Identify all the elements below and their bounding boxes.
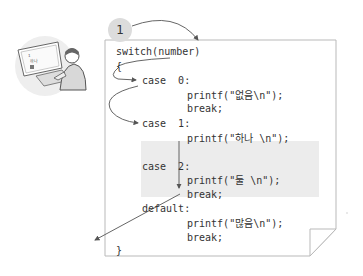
step-badge: 1 bbox=[108, 18, 132, 42]
code-line-open-brace: { bbox=[116, 61, 122, 73]
code-line-break-default: break; bbox=[187, 232, 223, 244]
code-line-case0: case 0: bbox=[142, 75, 190, 87]
code-line-printf-one: printf("하나 \n"); bbox=[187, 133, 289, 145]
code-line-break-2: break; bbox=[187, 189, 223, 201]
code-line-switch: switch(number) bbox=[116, 46, 200, 58]
code-line-default: default: bbox=[142, 203, 190, 215]
code-line-close-brace: } bbox=[116, 245, 122, 257]
paper-fold bbox=[310, 229, 336, 256]
code-line-printf-none: printf("없음\n"); bbox=[187, 90, 283, 102]
diagram-canvas: 1 하나 bbox=[0, 0, 363, 276]
code-line-printf-many: printf("많음\n"); bbox=[187, 218, 283, 230]
code-line-break-0: break; bbox=[187, 103, 223, 115]
code-line-case1: case 1: bbox=[142, 118, 190, 130]
arrow-badge-to-switch bbox=[132, 20, 198, 40]
code-line-printf-two: printf("둘 \n"); bbox=[187, 175, 280, 187]
person-at-computer-icon: 1 하나 bbox=[15, 36, 86, 96]
svg-text:하나: 하나 bbox=[30, 58, 38, 64]
code-line-case2: case 2: bbox=[142, 161, 190, 173]
